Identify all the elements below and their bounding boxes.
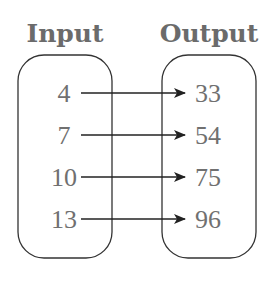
output-value: 75: [195, 163, 221, 192]
input-title: Input: [26, 19, 104, 48]
input-value: 10: [51, 163, 77, 192]
input-value: 13: [51, 205, 77, 234]
output-title: Output: [160, 19, 259, 48]
input-value: 7: [58, 121, 71, 150]
output-value: 54: [195, 121, 221, 150]
output-value: 96: [195, 205, 221, 234]
mapping-diagram: Input Output 4 7 10 13 33 54 75 96: [0, 0, 268, 283]
output-value: 33: [195, 79, 221, 108]
input-value: 4: [58, 79, 71, 108]
